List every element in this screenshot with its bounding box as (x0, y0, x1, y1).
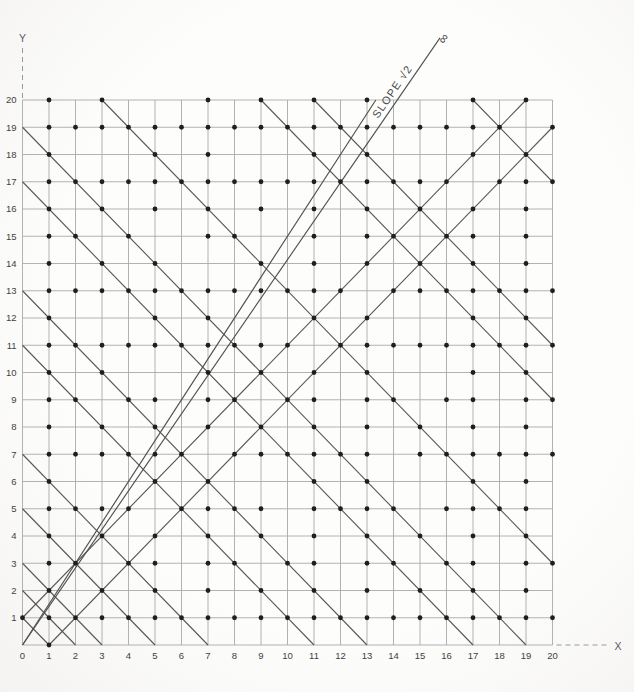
lattice-dot (100, 288, 105, 293)
y-tick-label: 14 (6, 258, 17, 269)
x-tick-label: 7 (205, 650, 210, 661)
ascending-diagonal-line (23, 100, 527, 618)
lattice-dot (47, 561, 52, 566)
lattice-dot (232, 125, 237, 130)
lattice-dot (471, 207, 476, 212)
x-axis-label: X (614, 640, 621, 652)
lattice-dot (418, 179, 423, 184)
lattice-dot (365, 479, 370, 484)
lattice-dot (524, 288, 529, 293)
lattice-dot (524, 588, 529, 593)
lattice-dot (524, 179, 529, 184)
y-tick-label: 20 (6, 94, 17, 105)
lattice-dot (471, 615, 476, 620)
lattice-dot (497, 452, 502, 457)
lattice-dot (365, 506, 370, 511)
slope-root2-label: SLOPE √2 (370, 63, 415, 120)
lattice-dot (365, 125, 370, 130)
y-tick-label: 5 (11, 503, 16, 514)
lattice-dot (206, 370, 211, 375)
lattice-dot (259, 98, 264, 103)
lattice-dot (73, 452, 78, 457)
lattice-dot (73, 343, 78, 348)
lattice-dot (312, 534, 317, 539)
slope-root2-line (23, 38, 441, 645)
anti-diagonal-line (473, 100, 553, 182)
lattice-dot (47, 261, 52, 266)
lattice-dot (206, 125, 211, 130)
lattice-dot (100, 370, 105, 375)
lattice-dot (100, 534, 105, 539)
lattice-dot (153, 125, 158, 130)
x-tick-label: 18 (494, 650, 505, 661)
lattice-dot (73, 179, 78, 184)
anti-diagonal-line (23, 509, 156, 645)
lattice-dot (259, 179, 264, 184)
lattice-dot (47, 152, 52, 157)
lattice-dot (365, 615, 370, 620)
lattice-dot (47, 452, 52, 457)
lattice-dot (524, 261, 529, 266)
x-tick-label: 17 (468, 650, 479, 661)
lattice-dot (285, 343, 290, 348)
lattice-dot (312, 425, 317, 430)
lattice-dot (153, 479, 158, 484)
lattice-dot (471, 452, 476, 457)
lattice-dot (285, 288, 290, 293)
lattice-dot (73, 397, 78, 402)
lattice-dot (179, 288, 184, 293)
lattice-dot (444, 234, 449, 239)
lattice-dot (550, 397, 555, 402)
lattice-dot (365, 316, 370, 321)
lattice-dot (285, 179, 290, 184)
lattice-dot (524, 534, 529, 539)
lattice-dot (206, 98, 211, 103)
lattice-dot (471, 234, 476, 239)
lattice-dot (259, 343, 264, 348)
lattice-dot (471, 370, 476, 375)
lattice-dot (418, 452, 423, 457)
anti-diagonal-line (261, 100, 553, 400)
lattice-dot (73, 288, 78, 293)
lattice-dot (153, 452, 158, 457)
lattice-dot (259, 534, 264, 539)
x-tick-label: 2 (73, 650, 78, 661)
lattice-dot (47, 125, 52, 130)
lattice-dot (550, 452, 555, 457)
lattice-dot (471, 152, 476, 157)
lattice-dot (338, 343, 343, 348)
lattice-dot (126, 125, 131, 130)
lattice-dot (206, 234, 211, 239)
lattice-dot (365, 234, 370, 239)
lattice-dot (524, 98, 529, 103)
lattice-dot (285, 615, 290, 620)
lattice-dot (206, 425, 211, 430)
lattice-dot (471, 288, 476, 293)
lattice-dot (524, 425, 529, 430)
lattice-dot (47, 397, 52, 402)
lattice-dot (365, 397, 370, 402)
x-tick-label: 13 (362, 650, 373, 661)
lattice-dot (47, 370, 52, 375)
lattice-dot (418, 588, 423, 593)
lattice-dot (338, 615, 343, 620)
lattice-dot (100, 207, 105, 212)
lattice-dot (391, 506, 396, 511)
lattice-dot (365, 425, 370, 430)
lattice-dot (524, 615, 529, 620)
lattice-dot (126, 234, 131, 239)
lattice-dot (47, 207, 52, 212)
lattice-dot (259, 261, 264, 266)
lattice-dot (444, 506, 449, 511)
lattice-dot (365, 452, 370, 457)
lattice-dot (312, 370, 317, 375)
dashed-axis-extensions (23, 48, 608, 645)
lattice-dot (259, 588, 264, 593)
lattice-dot (259, 615, 264, 620)
lattice-dot (126, 615, 131, 620)
lattice-dot (391, 179, 396, 184)
lattice-dot (206, 588, 211, 593)
lattice-dot (126, 179, 131, 184)
lattice-dot (206, 479, 211, 484)
lattice-dot (312, 234, 317, 239)
